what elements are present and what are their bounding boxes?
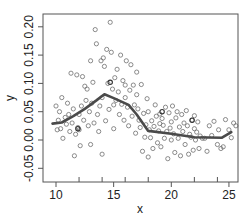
- data-point: [110, 87, 114, 91]
- data-point: [152, 124, 156, 128]
- data-point: [192, 114, 196, 118]
- data-point: [129, 63, 133, 67]
- data-point: [72, 154, 76, 158]
- y-tick-label: 0.05: [22, 100, 36, 124]
- data-point: [89, 142, 93, 146]
- data-point: [138, 125, 142, 129]
- data-point: [107, 107, 111, 111]
- data-point: [215, 142, 219, 146]
- data-point: [232, 121, 236, 125]
- data-point: [234, 124, 238, 128]
- x-tick-label: 25: [222, 188, 236, 202]
- data-point: [69, 71, 73, 75]
- data-point: [148, 136, 152, 140]
- data-point: [123, 96, 127, 100]
- data-point: [187, 152, 191, 156]
- data-point: [223, 118, 227, 122]
- data-point: [97, 129, 101, 133]
- data-point: [101, 56, 105, 60]
- data-point: [95, 112, 99, 116]
- data-point: [142, 111, 146, 115]
- data-point: [197, 146, 201, 150]
- data-point: [112, 127, 116, 131]
- data-point: [98, 104, 102, 108]
- x-tick-label: 20: [165, 188, 179, 202]
- data-point: [155, 141, 159, 145]
- data-point: [65, 101, 69, 105]
- data-point: [169, 120, 173, 124]
- data-point: [217, 128, 221, 132]
- data-point: [173, 150, 177, 154]
- data-point: [167, 111, 171, 115]
- data-point: [151, 146, 155, 150]
- data-point: [174, 116, 178, 120]
- data-point: [117, 112, 121, 116]
- data-point: [113, 76, 117, 80]
- data-point: [143, 135, 147, 139]
- data-point: [93, 28, 97, 32]
- scatter-plot: 10152025 -0.050.000.050.100.150.20 x y: [0, 0, 251, 220]
- data-point: [145, 97, 149, 101]
- data-point: [185, 124, 189, 128]
- data-point: [82, 118, 86, 122]
- data-point: [162, 136, 166, 140]
- data-point: [60, 96, 64, 100]
- data-point: [100, 152, 104, 156]
- data-point: [70, 121, 74, 125]
- data-point: [102, 64, 106, 68]
- data-point: [132, 103, 136, 107]
- data-point: [61, 136, 65, 140]
- data-point: [161, 123, 165, 127]
- data-point: [160, 116, 164, 120]
- data-point: [134, 131, 138, 135]
- data-point: [116, 90, 120, 94]
- data-point: [191, 148, 195, 152]
- data-point: [146, 155, 150, 159]
- x-tick-label: 10: [49, 188, 63, 202]
- data-point: [54, 104, 58, 108]
- data-point: [79, 104, 83, 108]
- data-point: [86, 124, 90, 128]
- data-point: [122, 118, 126, 122]
- data-point: [67, 112, 71, 116]
- data-point: [207, 124, 211, 128]
- data-point: [92, 121, 96, 125]
- x-tick-label: 15: [107, 188, 121, 202]
- data-point: [135, 70, 139, 74]
- data-point: [170, 104, 174, 108]
- smooth-fit-line: [53, 94, 232, 138]
- data-point: [94, 42, 98, 46]
- data-point: [124, 59, 128, 63]
- data-point: [71, 107, 75, 111]
- y-tick-label: 0.10: [22, 71, 36, 95]
- data-point: [108, 20, 112, 24]
- x-axis-title: x: [137, 202, 143, 216]
- data-point: [146, 110, 150, 114]
- y-tick-label: 0.20: [22, 15, 36, 39]
- data-point: [196, 120, 200, 124]
- y-axis: -0.050.000.050.100.150.20: [22, 15, 43, 182]
- data-point: [127, 124, 131, 128]
- data-point: [150, 119, 154, 123]
- data-point: [128, 88, 132, 92]
- data-point: [159, 145, 163, 149]
- data-point: [168, 126, 172, 130]
- data-point: [115, 67, 119, 71]
- data-point: [123, 83, 127, 87]
- data-point: [195, 130, 199, 134]
- data-point: [99, 59, 103, 63]
- y-tick-label: -0.05: [22, 154, 36, 182]
- data-point: [212, 119, 216, 123]
- data-point: [64, 122, 68, 126]
- data-point: [136, 107, 140, 111]
- data-point: [176, 136, 180, 140]
- data-point: [83, 84, 87, 88]
- data-point: [75, 73, 79, 77]
- data-point: [78, 144, 82, 148]
- data-point: [104, 119, 108, 123]
- data-point: [84, 98, 88, 102]
- data-point: [105, 47, 109, 51]
- y-axis-title: y: [3, 95, 17, 101]
- data-point: [68, 129, 72, 133]
- data-point: [85, 87, 89, 91]
